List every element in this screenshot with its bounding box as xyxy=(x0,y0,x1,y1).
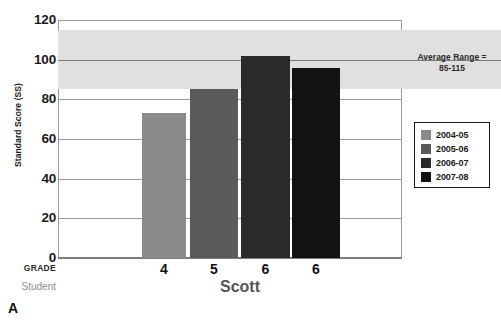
legend-item-2004-05: 2004-05 xyxy=(421,128,489,142)
legend: 2004-052005-062006-072007-08 xyxy=(414,122,490,188)
average-range-line1: Average Range = xyxy=(406,52,498,63)
legend-swatch-icon-2007-08 xyxy=(421,172,431,182)
legend-label-2006-07: 2006-07 xyxy=(436,158,468,168)
bar-2007-08 xyxy=(292,68,340,258)
average-range-line2: 85-115 xyxy=(406,63,498,74)
legend-item-2006-07: 2006-07 xyxy=(421,156,489,170)
bar-2004-05 xyxy=(142,113,186,258)
bar-2006-07 xyxy=(241,56,290,258)
legend-label-2005-06: 2005-06 xyxy=(436,144,468,154)
legend-swatch-icon-2004-05 xyxy=(421,130,431,140)
legend-swatch-icon-2006-07 xyxy=(421,158,431,168)
bar-2005-06 xyxy=(190,89,238,258)
legend-item-2005-06: 2005-06 xyxy=(421,142,489,156)
legend-label-2007-08: 2007-08 xyxy=(436,172,468,182)
figure-panel: 020406080100120 Standard Score (SS) 4566… xyxy=(0,0,501,323)
legend-label-2004-05: 2004-05 xyxy=(436,130,468,140)
average-range-annotation: Average Range = 85-115 xyxy=(406,52,498,75)
legend-swatch-icon-2005-06 xyxy=(421,144,431,154)
legend-item-2007-08: 2007-08 xyxy=(421,170,489,184)
